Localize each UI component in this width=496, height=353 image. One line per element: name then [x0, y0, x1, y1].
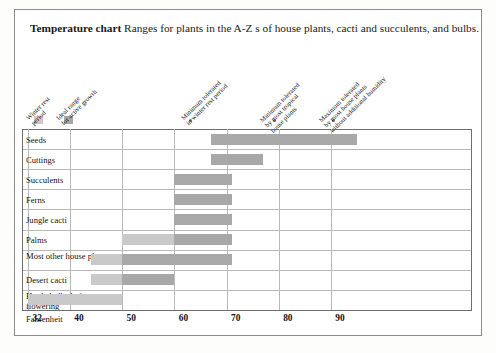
bar-ideal-range [174, 214, 231, 225]
bar-ideal-range [122, 254, 232, 265]
gridline-40 [70, 129, 71, 310]
axis-label-fahrenheit: Fahrenheit [26, 314, 63, 324]
row-label: Cuttings [26, 155, 55, 165]
axis-tick-32: 32 [33, 313, 42, 323]
row-label: Jungle cacti [26, 215, 67, 225]
axis-tick-80: 80 [283, 313, 292, 323]
gridline-80 [279, 129, 280, 310]
bar-ideal-range [174, 194, 231, 205]
row-divider [22, 169, 472, 170]
bar-winter-rest [91, 254, 122, 265]
row-divider [22, 209, 472, 210]
bar-ideal-range [211, 134, 357, 145]
plot-right-edge [471, 129, 472, 310]
row-divider [22, 230, 472, 231]
row-label: Desert cacti [26, 275, 67, 285]
row-label: Seeds [26, 135, 46, 145]
bar-ideal-range [174, 174, 231, 185]
row-label: Succulents [26, 175, 63, 185]
bar-ideal-range [211, 154, 263, 165]
plot-left-edge [22, 129, 23, 310]
axis-tick-90: 90 [335, 313, 344, 323]
row-divider [22, 129, 472, 130]
chart-plot-area: SeedsCuttingsSucculentsFernsJungle cacti… [22, 129, 472, 310]
axis-baseline [22, 310, 472, 311]
x-axis: Fahrenheit 32405060708090 [22, 310, 472, 332]
bar-winter-rest [122, 234, 174, 245]
row-divider [22, 149, 472, 150]
axis-tick-40: 40 [74, 313, 83, 323]
bar-winter-rest [28, 294, 122, 305]
row-divider [22, 189, 472, 190]
row-label: Ferns [26, 195, 45, 205]
legend-label: Minimum toleratedby most tropicalhouse p… [258, 81, 311, 134]
row-divider [22, 270, 472, 271]
bar-ideal-range [122, 274, 174, 285]
bar-winter-rest [91, 274, 122, 285]
gridline-90 [331, 129, 332, 310]
row-label: Palms [26, 235, 47, 245]
legend-label: Minimum toleratedin winter rest period [180, 77, 230, 127]
legend-label: Ideal rangefor active growth [55, 83, 99, 127]
bar-ideal-range [174, 234, 231, 245]
legend-label-line: by most house plants [323, 70, 382, 129]
legend-label: Maximum toleratedby most house plantswit… [317, 65, 387, 135]
axis-tick-50: 50 [127, 313, 136, 323]
axis-tick-60: 60 [179, 313, 188, 323]
axis-tick-70: 70 [231, 313, 240, 323]
page-root: Temperature chart Ranges for plants in t… [0, 0, 496, 353]
